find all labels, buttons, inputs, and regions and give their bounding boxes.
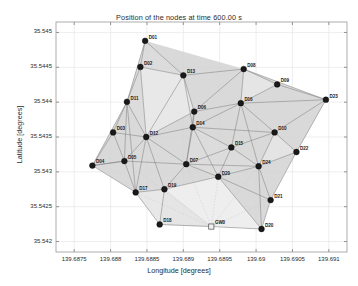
node-marker-gw0[interactable] [209, 224, 214, 229]
node-marker-d10[interactable] [272, 130, 278, 136]
x-tick-label: 139.6905 [272, 256, 312, 262]
y-axis-title: Latitude [degrees] [15, 75, 24, 195]
node-label-d17: D17 [139, 186, 147, 191]
node-label-d15: D15 [235, 141, 243, 146]
node-marker-d20[interactable] [259, 226, 265, 232]
node-marker-d19[interactable] [161, 186, 167, 192]
y-tick-label: 35.5445 [12, 63, 52, 69]
x-tick-label: 139.6875 [54, 256, 94, 262]
node-marker-d24[interactable] [256, 163, 262, 169]
node-label-d23: D23 [330, 94, 338, 99]
node-marker-d02[interactable] [137, 64, 143, 70]
x-axis-title: Longitude [degrees] [0, 266, 358, 275]
node-marker-d13[interactable] [180, 72, 186, 78]
node-marker-d05[interactable] [121, 158, 127, 164]
y-tick-label: 35.542 [12, 238, 52, 244]
node-label-gw0: GW0 [215, 220, 225, 225]
y-tick-label: 35.545 [12, 28, 52, 34]
node-label-d04: D04 [96, 159, 104, 164]
node-marker-d14[interactable] [190, 124, 196, 130]
x-tick-label: 139.6895 [200, 256, 240, 262]
node-label-d20: D20 [265, 223, 273, 228]
node-label-d08: D08 [247, 63, 255, 68]
node-label-d13: D13 [187, 69, 195, 74]
x-tick-label: 139.69 [236, 256, 276, 262]
x-tick-label: 139.689 [163, 256, 203, 262]
node-label-d05: D05 [128, 155, 136, 160]
node-marker-d23[interactable] [323, 97, 329, 103]
node-marker-d07[interactable] [183, 161, 189, 167]
node-label-d21: D21 [274, 194, 282, 199]
node-label-d19: D19 [168, 183, 176, 188]
node-marker-d06[interactable] [191, 109, 197, 115]
node-marker-d22[interactable] [294, 149, 300, 155]
node-label-d14: D14 [196, 121, 204, 126]
node-marker-d20[interactable] [215, 174, 221, 180]
node-label-d06: D06 [198, 105, 206, 110]
x-tick-label: 139.6885 [127, 256, 167, 262]
node-label-d07: D07 [190, 158, 198, 163]
node-marker-d12[interactable] [143, 134, 149, 140]
node-label-d09: D09 [281, 78, 289, 83]
x-tick-label: 139.688 [91, 256, 131, 262]
node-label-d11: D11 [131, 96, 139, 101]
x-tick-label: 139.691 [309, 256, 349, 262]
node-marker-d21[interactable] [268, 197, 274, 203]
node-marker-d09[interactable] [274, 81, 280, 87]
node-marker-d01[interactable] [142, 38, 148, 44]
figure-canvas: Position of the nodes at time 600.00 s 1… [0, 0, 358, 286]
node-marker-d11[interactable] [124, 99, 130, 105]
node-marker-d15[interactable] [228, 145, 234, 151]
node-marker-d18[interactable] [157, 222, 163, 228]
node-label-d18: D18 [163, 218, 171, 223]
y-tick-label: 35.5425 [12, 203, 52, 209]
node-label-d03: D03 [117, 126, 125, 131]
node-label-d24: D24 [262, 160, 270, 165]
node-marker-d08[interactable] [241, 66, 247, 72]
node-marker-d03[interactable] [110, 130, 116, 136]
node-label-d12: D12 [150, 131, 158, 136]
node-marker-d04[interactable] [89, 163, 95, 169]
node-label-d01: D01 [149, 35, 157, 40]
node-label-d10: D10 [278, 126, 286, 131]
node-label-d16: D16 [244, 97, 252, 102]
scatter-plot-svg [0, 0, 358, 286]
node-label-d20: D20 [222, 171, 230, 176]
node-marker-d17[interactable] [133, 190, 139, 196]
node-label-d22: D22 [300, 146, 308, 151]
node-label-d02: D02 [144, 61, 152, 66]
node-marker-d16[interactable] [238, 100, 244, 106]
